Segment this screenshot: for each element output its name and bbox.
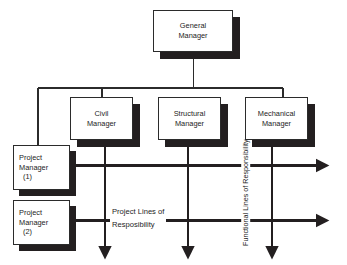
functional-lines-label-line1: Functional Lines [241,194,250,246]
org-chart-diagram: General Manager Civil Manager Structural… [0,0,347,265]
project-lines-label-line1: Project Lines of [112,205,164,218]
project-lines-label-line2: Resposibility [112,218,164,231]
responsibility-arrows-layer [0,0,347,265]
functional-lines-label-line2: of Responsibility [241,139,250,191]
functional-lines-label: Functional Lines of Responsibility [241,148,250,246]
project-lines-label: Project Lines of Resposibility [110,205,166,231]
